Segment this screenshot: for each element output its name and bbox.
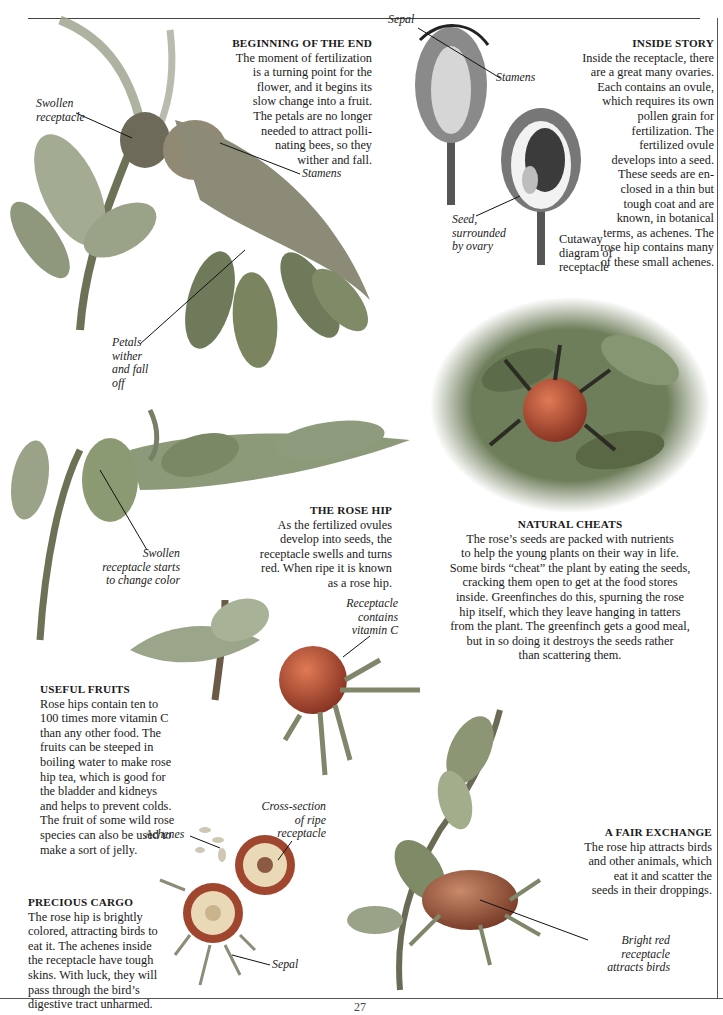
label-sepal-bottom: Sepal [272,958,298,972]
label-swollen-change-color: Swollen receptacle starts to change colo… [100,547,180,588]
label-petals-wither: Petals wither and fall off [112,336,148,390]
section-a-fair-exchange: A FAIR EXCHANGE The rose hip attracts bi… [540,825,712,898]
section-heading: THE ROSE HIP [220,503,392,518]
label-bright-red-receptacle: Bright red receptacle attracts birds [585,934,670,975]
section-heading: PRECIOUS CARGO [28,895,178,910]
section-natural-cheats: NATURAL CHEATS The rose’s seeds are pack… [425,517,715,663]
rose-bud-engraving [415,26,488,205]
section-heading: INSIDE STORY [546,36,714,51]
label-receptacle-vitamin-c: Receptacle contains vitamin C [330,597,398,638]
section-beginning-of-the-end: BEGINNING OF THE END The moment of ferti… [180,36,372,167]
label-swollen-receptacle: Swollen receptacle [36,97,85,124]
label-seed-surrounded: Seed, surrounded by ovary [452,213,506,254]
section-heading: A FAIR EXCHANGE [540,825,712,840]
section-the-rose-hip: THE ROSE HIP As the fertilized ovules de… [220,503,392,591]
label-cross-section: Cross-section of ripe receptacle [240,800,326,841]
caption-cutaway-diagram: Cutaway diagram of receptacle [559,232,613,275]
label-stamens: Stamens [302,167,341,181]
oval-rose-hip-photo [430,297,710,513]
section-heading: USEFUL FRUITS [40,682,210,697]
section-heading: BEGINNING OF THE END [180,36,372,51]
section-useful-fruits: USEFUL FRUITS Rose hips contain ten to 1… [40,682,210,857]
label-stamens-diagram: Stamens [496,71,535,85]
section-precious-cargo: PRECIOUS CARGO The rose hip is brightly … [28,895,178,1012]
bright-red-rose-hip-illustration [347,709,540,990]
label-achenes: Achenes [145,828,184,842]
section-heading: NATURAL CHEATS [425,517,715,532]
label-sepal-diagram: Sepal [388,13,414,27]
